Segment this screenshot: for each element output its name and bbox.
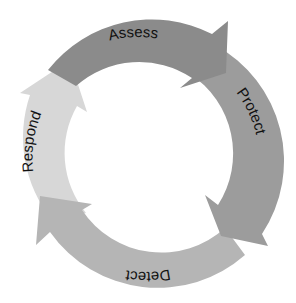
cycle-diagram: Assess Protect Detect Respond xyxy=(0,0,296,303)
label-detect: Detect xyxy=(123,266,171,285)
